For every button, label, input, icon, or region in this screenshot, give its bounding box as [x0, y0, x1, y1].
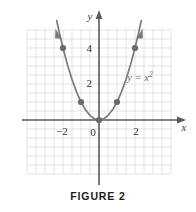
point-neg1-1: [78, 99, 84, 105]
x-tick-label-2: 2: [133, 125, 139, 137]
plot-svg: −2 2 2 4 0 x y y = x2: [0, 0, 196, 190]
y-axis-arrowhead: [96, 10, 103, 19]
curve-equation-base: y = x: [126, 72, 149, 83]
y-tick-label-2: 2: [87, 77, 93, 89]
figure-caption: FIGURE 2: [0, 190, 196, 202]
origin-label: 0: [90, 126, 96, 138]
y-axis-label: y: [87, 10, 93, 22]
point-0-0: [96, 117, 102, 123]
x-tick-label-neg2: −2: [56, 125, 68, 137]
curve-equation-exponent: 2: [149, 70, 153, 79]
parabola-plot: −2 2 2 4 0 x y y = x2: [0, 0, 196, 190]
figure-2-container: −2 2 2 4 0 x y y = x2 FIGURE 2: [0, 0, 196, 212]
x-axis-label: x: [181, 121, 187, 133]
y-tick-label-4: 4: [87, 42, 93, 54]
point-2-4: [132, 45, 138, 51]
point-1-1: [114, 99, 120, 105]
curve-equation-label: y = x2: [126, 70, 153, 83]
axes: [22, 16, 180, 185]
point-neg2-4: [60, 45, 66, 51]
